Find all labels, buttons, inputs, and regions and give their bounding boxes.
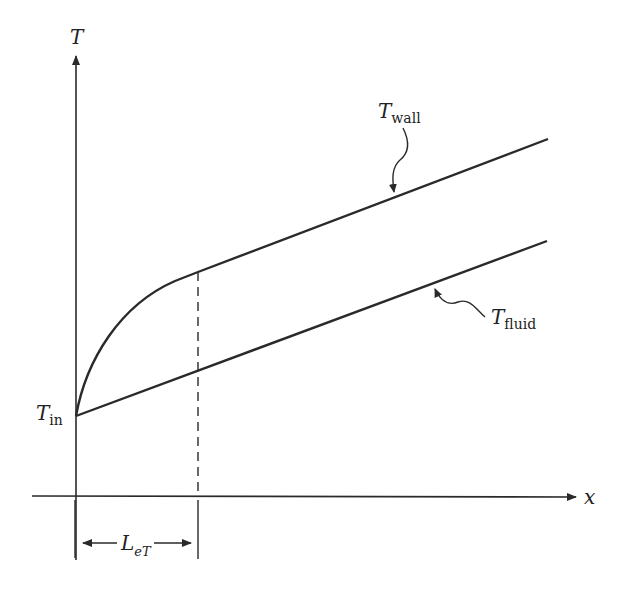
- x-axis-label: x: [584, 485, 595, 509]
- t-wall-label: Twall: [378, 99, 421, 126]
- fluid-temperature-line: [76, 241, 547, 416]
- x-axis: [32, 496, 576, 497]
- entry-length-label: LeT: [120, 531, 152, 559]
- t-fluid-label: Tfluid: [491, 305, 536, 332]
- y-axis-label: T: [70, 25, 85, 49]
- t-wall-pointer-arrow: [393, 128, 408, 192]
- t-fluid-pointer-arrow: [435, 289, 485, 317]
- t-in-label: Tin: [36, 401, 63, 428]
- wall-temperature-curve: [76, 139, 548, 416]
- temperature-diagram: T x LeT Tin Twall Tfluid: [0, 0, 625, 594]
